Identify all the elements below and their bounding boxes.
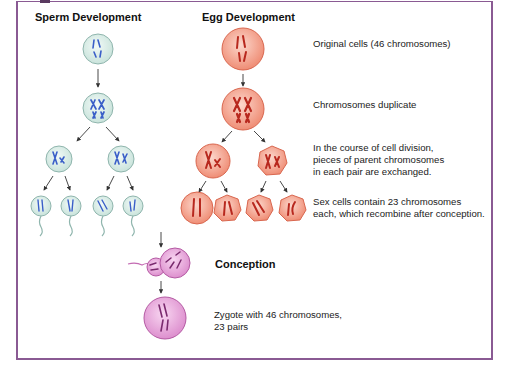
- arrow-down-left-icon: [44, 176, 53, 190]
- sperm-division-cell-right: [108, 146, 134, 172]
- egg-development-heading: Egg Development: [202, 11, 295, 23]
- egg-division-cell-left: [196, 144, 230, 178]
- sperm-development-heading: Sperm Development: [35, 11, 141, 23]
- step-sex-cells-label: Sex cells contain 23 chromosomes each, w…: [313, 196, 485, 220]
- arrow-down-left-icon: [77, 127, 90, 141]
- sperm-duplicated-cell: [83, 93, 113, 123]
- egg-duplicated-cell: [222, 88, 264, 130]
- step-original-cells-label: Original cells (46 chromosomes): [313, 38, 451, 50]
- arrow-down-right-icon: [106, 127, 119, 141]
- egg-cell-4: [279, 195, 306, 221]
- arrow-down-right-icon: [254, 131, 265, 142]
- step-crossover-label: In the course of cell division, pieces o…: [313, 142, 444, 178]
- arrow-down-right-icon: [127, 176, 133, 190]
- zygote-label: Zygote with 46 chromosomes, 23 pairs: [214, 309, 342, 333]
- conception-cell: [128, 248, 190, 278]
- sperm-cell-2: [61, 196, 81, 236]
- sperm-cell-4: [123, 196, 143, 236]
- egg-cell-1: [181, 192, 213, 224]
- conception-heading: Conception: [215, 258, 276, 270]
- egg-cell-3: [246, 195, 273, 221]
- arrow-down-left-icon: [261, 181, 266, 192]
- egg-original-cell: [222, 28, 264, 70]
- sperm-cell-1: [31, 196, 51, 236]
- sperm-cell-3: [93, 196, 113, 236]
- sperm-division-cell-left: [46, 146, 72, 172]
- arrow-down-left-icon: [199, 181, 206, 192]
- step-duplicate-label: Chromosomes duplicate: [313, 99, 416, 111]
- arrow-down-left-icon: [107, 176, 114, 190]
- arrow-down-left-icon: [222, 131, 232, 142]
- sperm-original-cell: [83, 34, 113, 64]
- zygote-cell: [144, 297, 186, 339]
- egg-cell-2: [214, 195, 241, 221]
- egg-division-cell-right: [258, 146, 287, 175]
- arrow-down-right-icon: [221, 181, 227, 192]
- arrow-down-right-icon: [280, 181, 287, 192]
- arrow-down-right-icon: [65, 176, 70, 190]
